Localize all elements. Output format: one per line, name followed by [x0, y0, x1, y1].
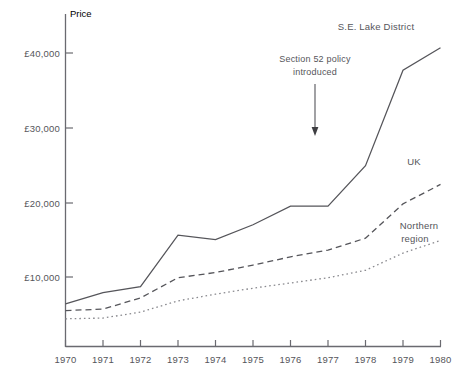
y-tick-label-30000: £30,000: [24, 123, 60, 134]
x-tick-label-1971: 1971: [92, 354, 114, 365]
x-tick-label-1970: 1970: [55, 354, 77, 365]
x-tick-label-1980: 1980: [430, 354, 452, 365]
x-tick-label-1979: 1979: [392, 354, 414, 365]
y-tick-label-20000: £20,000: [24, 198, 60, 209]
y-tick-label-40000: £40,000: [24, 48, 60, 59]
annotation-text-line2: introduced: [293, 67, 337, 77]
y-axis-ticks: [66, 53, 74, 277]
x-tick-label-1973: 1973: [167, 354, 189, 365]
x-tick-label-1972: 1972: [130, 354, 152, 365]
chart-canvas: Price £40,000 £30,000 £20,000 £10,000 19…: [0, 0, 453, 381]
series-label-northern-region-line1: Northern: [400, 220, 439, 231]
series-label-northern-region-line2: region: [401, 233, 429, 244]
x-tick-label-1978: 1978: [355, 354, 377, 365]
series-label-se-lake-district: S.E. Lake District: [338, 21, 415, 32]
y-axis-title: Price: [70, 8, 92, 19]
x-tick-label-1975: 1975: [242, 354, 264, 365]
y-tick-label-10000: £10,000: [24, 272, 60, 283]
x-tick-label-1977: 1977: [317, 354, 339, 365]
x-tick-label-1976: 1976: [280, 354, 302, 365]
x-axis-ticks: [66, 340, 441, 347]
down-arrow-icon: [312, 84, 319, 136]
series-label-uk: UK: [407, 156, 421, 167]
annotation-text-line1: Section 52 policy: [279, 54, 351, 64]
series-line-northern-region: [66, 240, 441, 318]
series-line-uk: [66, 184, 441, 310]
x-tick-label-1974: 1974: [205, 354, 227, 365]
price-trend-chart: Price £40,000 £30,000 £20,000 £10,000 19…: [0, 0, 453, 381]
